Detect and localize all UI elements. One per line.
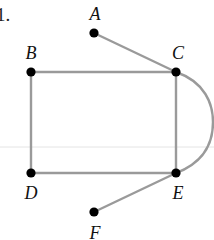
- node-label-e: E: [173, 184, 184, 202]
- node-a: [89, 28, 98, 37]
- graph-diagram: 1. A B C D E F: [0, 0, 214, 240]
- node-label-f: F: [90, 224, 101, 240]
- node-label-c: C: [172, 44, 184, 62]
- node-label-a: A: [90, 5, 101, 23]
- edge-c-e-curved: [176, 72, 213, 173]
- edge-a-c: [94, 33, 176, 72]
- node-f: [89, 207, 98, 216]
- edge-f-e: [94, 173, 176, 212]
- problem-number: 1.: [0, 4, 10, 26]
- node-d: [26, 168, 35, 177]
- node-c: [171, 67, 180, 76]
- graph-canvas: [0, 0, 214, 240]
- node-e: [171, 168, 180, 177]
- node-label-d: D: [25, 184, 38, 202]
- node-b: [26, 67, 35, 76]
- node-label-b: B: [26, 44, 37, 62]
